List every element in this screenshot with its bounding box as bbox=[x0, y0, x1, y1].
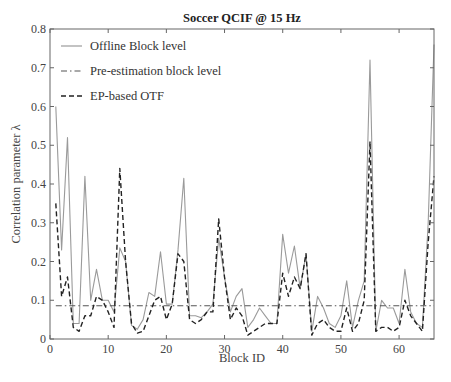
chart-title: Soccer QCIF @ 15 Hz bbox=[183, 11, 301, 25]
legend-label-ep-otf: EP-based OTF bbox=[90, 89, 164, 103]
y-tick-label: 0.1 bbox=[31, 293, 46, 307]
series-line-0 bbox=[56, 45, 434, 332]
y-tick-label: 0.4 bbox=[31, 177, 46, 191]
x-tick-label: 60 bbox=[393, 342, 405, 356]
x-axis-label: Block ID bbox=[219, 351, 265, 365]
y-tick-label: 0.3 bbox=[31, 216, 46, 230]
x-tick-label: 10 bbox=[102, 342, 114, 356]
line-chart: Soccer QCIF @ 15 Hz 0102030405060 00.10.… bbox=[0, 0, 451, 382]
legend-label-preestimation: Pre-estimation block level bbox=[90, 64, 222, 78]
legend: Offline Block level Pre-estimation block… bbox=[61, 39, 222, 103]
y-axis-label: Correlation parameter λ bbox=[9, 124, 23, 243]
y-tick-label: 0.7 bbox=[31, 61, 46, 75]
y-tick-label: 0 bbox=[40, 332, 46, 346]
x-tick-label: 20 bbox=[160, 342, 172, 356]
x-tick-label: 50 bbox=[335, 342, 347, 356]
y-tick-label: 0.6 bbox=[31, 100, 46, 114]
legend-label-offline: Offline Block level bbox=[90, 39, 187, 53]
y-tick-label: 0.8 bbox=[31, 22, 46, 36]
y-tick-label: 0.5 bbox=[31, 138, 46, 152]
x-axis-ticks: 0102030405060 bbox=[47, 29, 405, 356]
x-tick-label: 0 bbox=[47, 342, 53, 356]
y-tick-label: 0.2 bbox=[31, 255, 46, 269]
x-tick-label: 40 bbox=[277, 342, 289, 356]
